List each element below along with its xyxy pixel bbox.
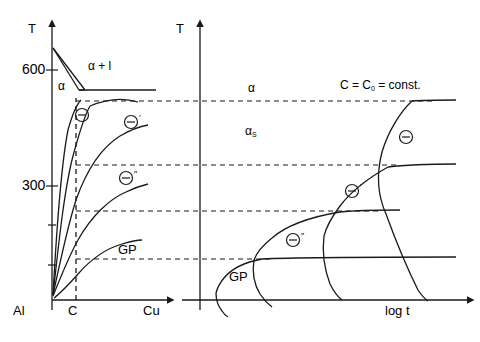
- theta-prime-glyph: [125, 116, 138, 129]
- gp-label-left: GP: [118, 243, 137, 256]
- theta-double-prime-label-right: ″: [301, 232, 305, 244]
- figure-canvas: T 600 300 α + l α ′ ″ GP Al C Cu T α αS …: [0, 0, 480, 342]
- theta-double-prime-glyph: [287, 234, 300, 247]
- theta-glyphs-right: [287, 131, 413, 247]
- right-y-axis-label: T: [176, 22, 184, 35]
- region-alpha-s: αS: [245, 125, 257, 138]
- gp-plateau: [262, 257, 456, 259]
- theta-double-prime-solvus-curve: [53, 184, 148, 296]
- theta-plateau: [412, 100, 456, 101]
- gp-label-right: GP: [229, 270, 248, 283]
- theta-glyph: [400, 131, 413, 144]
- theta-prime-plateau: [388, 164, 456, 167]
- x-axis-end-label-cu: Cu: [143, 304, 160, 317]
- theta-prime-glyph: [346, 185, 359, 198]
- concentration-note: C = C0 = const.: [340, 79, 421, 92]
- theta-prime-label-right: ′: [360, 183, 362, 195]
- left-ytick-600: 600: [22, 62, 45, 76]
- theta-double-prime-label-left: ″: [134, 170, 138, 182]
- left-y-axis-label: T: [28, 22, 36, 35]
- theta-prime-label-left: ′: [139, 114, 141, 126]
- theta-double-prime-plateau: [340, 210, 400, 212]
- diagram-svg: [0, 0, 480, 342]
- solidus-line: [53, 48, 79, 90]
- theta-double-prime-glyph: [120, 172, 133, 185]
- left-ytick-300: 300: [22, 178, 45, 192]
- theta-glyph: [76, 109, 89, 122]
- region-alpha-plus-liquid: α + l: [88, 60, 111, 72]
- composition-marker-label-c: C: [68, 304, 77, 317]
- gp-c-curve: [216, 259, 262, 317]
- right-x-axis-label: log t: [385, 304, 410, 317]
- region-alpha-left: α: [58, 80, 65, 92]
- region-alpha-right: α: [248, 82, 255, 94]
- x-axis-start-label-al: Al: [13, 304, 25, 317]
